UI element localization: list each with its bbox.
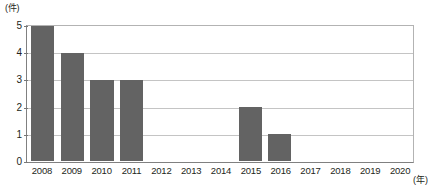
y-axis-tick-label: 0 <box>16 157 22 167</box>
bar-slot <box>176 26 206 161</box>
y-axis-tick-mark <box>24 162 28 163</box>
bar-slot <box>294 26 324 161</box>
x-axis-tick-label: 2012 <box>146 165 176 177</box>
x-axis-tick-label: 2020 <box>385 165 415 177</box>
bar-slot <box>58 26 88 161</box>
y-axis-tick-label: 3 <box>16 75 22 85</box>
x-axis-unit-label: (年) <box>413 175 428 186</box>
bar-slot <box>117 26 147 161</box>
x-axis-tick-label: 2018 <box>325 165 355 177</box>
bar-slot <box>235 26 265 161</box>
plot-area: 012345 <box>26 25 414 163</box>
y-axis-tick-label: 4 <box>16 48 22 58</box>
x-axis-tick-label: 2009 <box>57 165 87 177</box>
x-axis-tick-label: 2013 <box>176 165 206 177</box>
x-axis-tick-label: 2017 <box>296 165 326 177</box>
bar-slot <box>146 26 176 161</box>
y-axis-tick-label: 2 <box>16 103 22 113</box>
x-axis-tick-label: 2014 <box>206 165 236 177</box>
bar <box>90 80 113 161</box>
bar <box>120 80 143 161</box>
bar-slot <box>87 26 117 161</box>
bar <box>239 107 262 161</box>
x-axis-tick-label: 2011 <box>117 165 147 177</box>
bar-chart: (件) (年) 012345 2008200920102011201220132… <box>0 0 438 196</box>
bar-slot <box>28 26 58 161</box>
y-axis-unit-label: (件) <box>5 3 19 14</box>
y-axis-tick-label: 1 <box>16 130 22 140</box>
x-axis-tick-label: 2015 <box>236 165 266 177</box>
bar <box>61 53 84 161</box>
x-axis-tick-label: 2010 <box>87 165 117 177</box>
bar-slot <box>265 26 295 161</box>
bar <box>268 134 291 161</box>
bar-slot <box>324 26 354 161</box>
y-axis-tick-label: 5 <box>16 21 22 31</box>
x-axis-tick-labels: 2008200920102011201220132014201520162017… <box>27 165 415 177</box>
x-axis-tick-label: 2016 <box>266 165 296 177</box>
bar-slot <box>206 26 236 161</box>
x-axis-tick-label: 2008 <box>27 165 57 177</box>
bar-slot <box>354 26 384 161</box>
bar-slot <box>383 26 413 161</box>
bar <box>31 26 54 161</box>
x-axis-tick-label: 2019 <box>355 165 385 177</box>
bar-series <box>28 26 413 161</box>
